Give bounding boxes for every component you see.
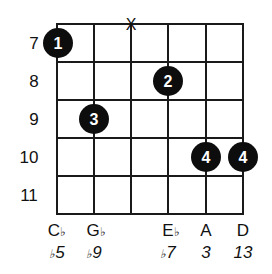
interval-label: 13 [234,243,253,262]
finger-number: 4 [239,149,248,166]
note-names: C♭ G♭ E♭ A D [48,221,249,240]
finger-dot: 1 [43,28,73,58]
finger-number: 2 [164,73,173,90]
finger-dot: 4 [228,142,258,172]
finger-number: 4 [202,149,211,166]
note-name: D [237,221,249,240]
finger-number: 1 [54,35,63,52]
fret-number: 10 [20,148,39,167]
note-name: G♭ [86,221,105,240]
interval-label: 3 [201,243,211,262]
fret-number: 7 [29,34,38,53]
finger-dot: 4 [191,142,221,172]
fret-numbers: 7 8 9 10 11 [20,34,39,205]
finger-dot: 2 [153,66,183,96]
note-name: E♭ [162,221,179,240]
fret-number: 11 [20,186,38,205]
interval-label: ♭7 [160,243,176,262]
interval-label: ♭5 [49,243,65,262]
fret-number: 9 [29,110,38,129]
note-name: C♭ [48,221,66,240]
finger-number: 3 [90,111,99,128]
interval-labels: ♭5 ♭9 ♭7 3 13 [49,243,253,262]
chord-diagram: X 7 8 9 10 11 1 2 3 4 4 C♭ G♭ E♭ A D ♭5 … [0,0,272,274]
muted-string-x-icon: X [126,16,137,33]
note-name: A [200,221,212,240]
finger-dot: 3 [79,104,109,134]
fret-number: 8 [29,72,38,91]
interval-label: ♭9 [86,243,102,262]
